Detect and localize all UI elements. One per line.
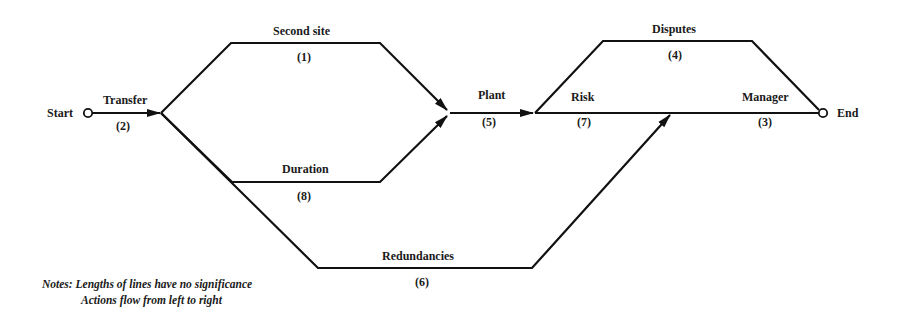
label-risk: Risk — [571, 90, 595, 104]
start-node-icon — [84, 109, 92, 117]
number-plant: (5) — [482, 115, 496, 129]
number-manager: (3) — [758, 115, 772, 129]
network-diagram: Start Transfer (2) Second site (1) Durat… — [0, 0, 902, 321]
end-label: End — [837, 106, 859, 120]
label-duration: Duration — [282, 162, 329, 176]
edge-redundancies — [161, 113, 670, 268]
label-redundancies: Redundancies — [382, 249, 454, 263]
number-risk: (7) — [577, 115, 591, 129]
number-second-site: (1) — [297, 50, 311, 64]
label-manager: Manager — [742, 90, 789, 104]
start-label: Start — [47, 106, 73, 120]
end-node-icon — [819, 109, 827, 117]
number-transfer: (2) — [116, 119, 130, 133]
number-redundancies: (6) — [415, 275, 429, 289]
label-plant: Plant — [478, 88, 505, 102]
label-transfer: Transfer — [103, 93, 148, 107]
label-disputes: Disputes — [652, 22, 696, 36]
number-disputes: (4) — [668, 48, 682, 62]
notes-line-2: Actions flow from left to right — [80, 294, 223, 307]
number-duration: (8) — [297, 189, 311, 203]
notes-line-1: Notes: Lengths of lines have no signific… — [41, 278, 252, 291]
label-second-site: Second site — [273, 24, 331, 38]
